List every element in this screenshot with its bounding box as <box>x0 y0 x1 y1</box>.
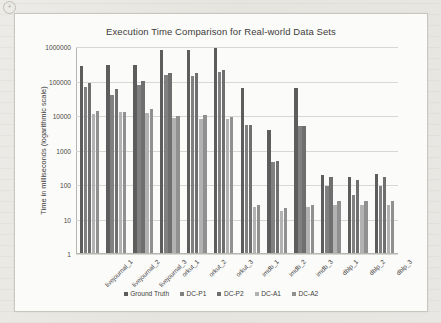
bar <box>88 83 91 253</box>
gridline <box>76 254 398 255</box>
bar <box>230 117 233 253</box>
bar <box>123 112 126 253</box>
bar <box>133 65 136 253</box>
legend-item[interactable]: DC-P2 <box>217 290 243 297</box>
y-axis-tick-label: 1000 <box>11 147 71 154</box>
bar-group <box>130 46 157 253</box>
bar <box>226 119 229 253</box>
bar <box>271 162 274 253</box>
legend-swatch-icon <box>124 292 128 296</box>
bar <box>280 211 283 253</box>
bar <box>172 118 175 253</box>
bar <box>375 174 378 253</box>
bar <box>141 81 144 253</box>
legend-label: DC-P2 <box>224 290 244 297</box>
legend-label: Ground Truth <box>130 290 169 297</box>
bar <box>276 161 279 253</box>
chart-legend: Ground TruthDC-P1DC-P2DC-A1DC-A2 <box>15 290 427 297</box>
bar <box>80 66 83 253</box>
bar <box>176 116 179 253</box>
bar <box>302 126 305 253</box>
legend-item[interactable]: DC-P1 <box>180 290 206 297</box>
x-axis-tick-label: livejournal_1 <box>104 258 134 288</box>
legend-label: DC-A1 <box>261 290 281 297</box>
bar <box>96 111 99 253</box>
bar-group <box>237 46 264 253</box>
legend-item[interactable]: DC-A1 <box>255 290 281 297</box>
x-axis-tick-label: imdb_3 <box>314 258 334 278</box>
bar <box>187 50 190 253</box>
x-axis-tick-label: orkut_3 <box>234 258 254 278</box>
x-axis-tick-label: orkut_2 <box>207 258 227 278</box>
bar <box>241 88 244 253</box>
bar <box>257 205 260 253</box>
bar <box>325 186 328 253</box>
legend-swatch-icon <box>217 292 221 296</box>
bar-group <box>157 46 184 253</box>
bar <box>379 186 382 253</box>
bar-group <box>344 46 371 253</box>
y-axis-tick-label: 10 <box>11 216 71 223</box>
bar <box>199 119 202 253</box>
y-axis-tick-label: 1000000 <box>11 44 71 51</box>
bar <box>145 113 148 253</box>
bar <box>168 73 171 253</box>
bar <box>352 195 355 253</box>
x-axis-tick-label: dblp_1 <box>341 258 360 277</box>
bar-group <box>291 46 318 253</box>
bar <box>294 88 297 253</box>
bar <box>253 207 256 253</box>
x-axis-tick-label: livejournal_2 <box>131 258 161 288</box>
bar <box>360 205 363 253</box>
bar <box>311 205 314 253</box>
bar <box>119 112 122 253</box>
bar <box>383 177 386 253</box>
bar <box>195 73 198 253</box>
bar <box>150 109 153 253</box>
bar <box>218 72 221 253</box>
bar <box>306 207 309 253</box>
legend-swatch-icon <box>255 292 259 296</box>
bar-group <box>103 46 130 253</box>
legend-item[interactable]: DC-A2 <box>292 290 318 297</box>
bar-group <box>183 46 210 253</box>
legend-label: DC-A2 <box>298 290 318 297</box>
y-axis-tick-label: 100000 <box>11 78 71 85</box>
chart-title: Execution Time Comparison for Real-world… <box>15 26 427 37</box>
bar <box>321 175 324 253</box>
bar-group <box>264 46 291 253</box>
bar <box>364 201 367 253</box>
bar <box>356 180 359 253</box>
y-axis-tick-label: 1 <box>11 251 71 258</box>
legend-item[interactable]: Ground Truth <box>124 290 169 297</box>
x-axis-tick-label: imdb_1 <box>261 258 281 278</box>
bar <box>222 70 225 253</box>
bar <box>391 201 394 253</box>
x-axis-tick-label: dblp_3 <box>394 258 413 277</box>
bar <box>245 125 248 253</box>
y-axis-tick-label: 10000 <box>11 113 71 120</box>
bar <box>267 130 270 253</box>
plot-area: 1000000100000100001000100101livejournal_… <box>76 47 398 254</box>
x-axis-tick-label: imdb_2 <box>287 258 307 278</box>
bar <box>329 177 332 253</box>
bar <box>164 75 167 253</box>
bar-group <box>76 46 103 253</box>
bar <box>284 208 287 253</box>
legend-swatch-icon <box>292 292 296 296</box>
bar-group <box>210 46 237 253</box>
bar <box>203 115 206 253</box>
legend-swatch-icon <box>180 292 184 296</box>
bar <box>348 177 351 253</box>
bar <box>337 201 340 253</box>
bar <box>115 89 118 253</box>
bar <box>106 65 109 253</box>
bar <box>191 76 194 253</box>
bar-group <box>318 46 345 253</box>
bar-group <box>371 46 398 253</box>
bar <box>214 48 217 253</box>
bar <box>137 85 140 253</box>
bar <box>92 114 95 253</box>
x-axis-tick-label: dblp_2 <box>367 258 386 277</box>
bar <box>249 125 252 253</box>
